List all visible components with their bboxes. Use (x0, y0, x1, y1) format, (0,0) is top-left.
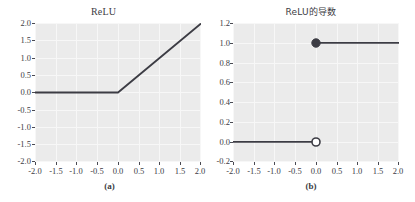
panel-a-plot-area (35, 23, 201, 162)
tick-mark-x (118, 162, 119, 165)
tick-mark-y (32, 127, 35, 128)
panel-b-plot-area (233, 23, 399, 162)
panel-a-ytick: -1.0 (5, 123, 31, 132)
panel-b-title: ReLU的导数 (207, 6, 415, 18)
tick-mark-x (316, 162, 317, 165)
panel-b-ytick: 0.6 (204, 78, 230, 87)
panel-b-ytick: 0.2 (204, 118, 230, 127)
tick-mark-y (230, 122, 233, 123)
panel-relu: ReLU 2.0 1. (0, 0, 207, 202)
relu-figure: ReLU 2.0 1. (0, 0, 415, 202)
tick-mark-x (274, 162, 275, 165)
tick-mark-x (378, 162, 379, 165)
tick-mark-x (76, 162, 77, 165)
panel-b-ytick: 1.2 (204, 19, 230, 28)
panel-b-caption: (b) (207, 181, 415, 192)
panel-b-ytick: 1.0 (204, 39, 230, 48)
panel-b-ytick: 0.0 (204, 138, 230, 147)
panel-b-xtick: 2.0 (385, 167, 411, 176)
tick-mark-x (398, 162, 399, 165)
panel-b-ytick: 0.4 (204, 98, 230, 107)
panel-a-ytick: 2.0 (5, 19, 31, 28)
tick-mark-y (230, 102, 233, 103)
relu-curve (35, 23, 201, 162)
tick-mark-x (357, 162, 358, 165)
tick-mark-y (32, 110, 35, 111)
tick-mark-x (254, 162, 255, 165)
panel-b-ytick: -0.2 (204, 157, 230, 166)
tick-mark-y (32, 23, 35, 24)
panel-a-title: ReLU (0, 6, 207, 18)
tick-mark-y (32, 144, 35, 145)
panel-relu-derivative: ReLU的导数 (207, 0, 415, 202)
panel-a-caption: (a) (0, 181, 207, 192)
tick-mark-x (337, 162, 338, 165)
tick-mark-x (97, 162, 98, 165)
tick-mark-x (159, 162, 160, 165)
panel-a-ytick: 1.5 (5, 36, 31, 45)
open-circle-marker (310, 136, 322, 148)
tick-mark-y (230, 142, 233, 143)
panel-a-ytick: 0.0 (5, 88, 31, 97)
panel-a-ytick: 0.5 (5, 71, 31, 80)
panel-a-ytick: -2.0 (5, 157, 31, 166)
tick-mark-x (233, 162, 234, 165)
tick-mark-x (35, 162, 36, 165)
tick-mark-x (180, 162, 181, 165)
panel-b-ytick: 0.8 (204, 59, 230, 68)
tick-mark-x (295, 162, 296, 165)
tick-mark-x (56, 162, 57, 165)
tick-mark-y (230, 43, 233, 44)
tick-mark-y (32, 40, 35, 41)
panel-a-ytick: -0.5 (5, 106, 31, 115)
tick-mark-y (230, 82, 233, 83)
tick-mark-y (32, 75, 35, 76)
tick-mark-y (230, 63, 233, 64)
tick-mark-x (139, 162, 140, 165)
tick-mark-x (200, 162, 201, 165)
panel-a-ytick: 1.0 (5, 54, 31, 63)
tick-mark-y (32, 58, 35, 59)
panel-a-ytick: -1.5 (5, 140, 31, 149)
tick-mark-y (230, 23, 233, 24)
filled-circle-marker (310, 37, 322, 49)
tick-mark-y (32, 92, 35, 93)
